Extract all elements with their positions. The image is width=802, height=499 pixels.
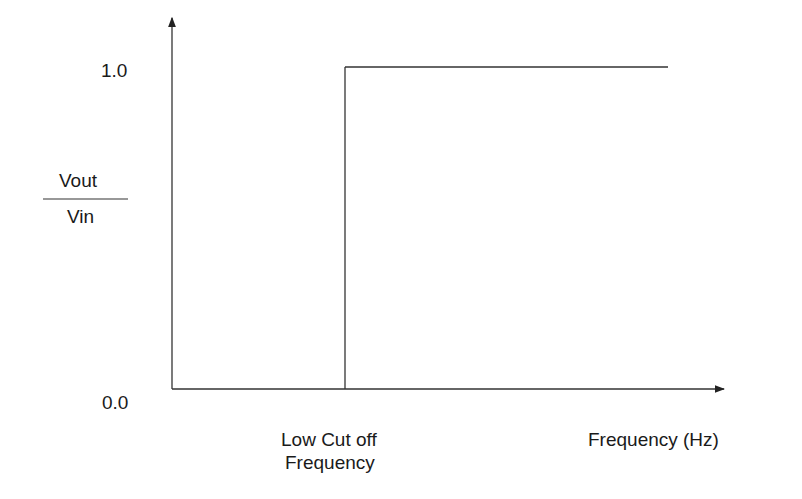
y-tick-label-max: 1.0	[101, 60, 127, 82]
cutoff-label-line1: Low Cut off	[281, 429, 377, 451]
x-axis-label: Frequency (Hz)	[588, 429, 719, 451]
cutoff-label-line2: Frequency	[285, 452, 375, 474]
y-tick-label-min: 0.0	[102, 392, 128, 414]
ylabel-denominator: Vin	[67, 206, 94, 228]
ylabel-numerator: Vout	[59, 170, 97, 192]
